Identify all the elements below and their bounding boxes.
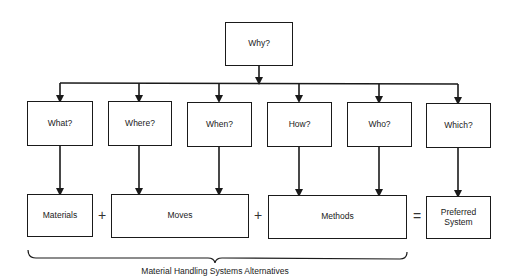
box-how-label: How? <box>289 120 311 130</box>
box-which-label: Which? <box>444 121 472 131</box>
box-which: Which? <box>426 103 491 148</box>
box-preferred-system-label: Preferred System <box>435 208 482 228</box>
plus-operator-2: + <box>251 208 265 222</box>
box-moves: Moves <box>111 194 249 238</box>
branch-bus <box>60 83 458 84</box>
brace-caption: Material Handling Systems Alternatives <box>110 266 320 276</box>
box-why-label: Why? <box>248 39 270 49</box>
box-who: Who? <box>347 102 412 147</box>
box-when: When? <box>187 102 252 147</box>
box-materials: Materials <box>27 194 93 237</box>
box-what-label: What? <box>48 119 73 129</box>
equals-operator: = <box>410 209 424 223</box>
box-who-label: Who? <box>368 120 390 130</box>
box-materials-label: Materials <box>43 211 77 221</box>
plus-operator-1: + <box>95 208 109 222</box>
box-methods: Methods <box>268 195 407 239</box>
box-moves-label: Moves <box>167 211 192 221</box>
box-when-label: When? <box>206 120 233 130</box>
box-methods-label: Methods <box>321 212 354 222</box>
box-where: Where? <box>108 101 172 146</box>
box-how: How? <box>267 102 332 147</box>
box-preferred-system: Preferred System <box>426 196 491 239</box>
box-why: Why? <box>225 22 293 66</box>
brace <box>28 250 407 263</box>
box-where-label: Where? <box>125 119 155 129</box>
box-what: What? <box>27 101 93 146</box>
